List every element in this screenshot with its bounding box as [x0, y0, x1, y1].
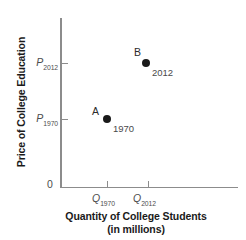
x-tick-label-q1970-sub: 1970 — [100, 200, 115, 207]
scatter-chart: Price of College Education 0 P2012 P1970… — [0, 0, 246, 240]
y-axis-title: Price of College Education — [15, 22, 27, 182]
y-tick-label-p1970-sub: 1970 — [43, 120, 58, 127]
x-axis-title: Quantity of College Students (in million… — [36, 210, 236, 236]
x-tick-mark-q2012 — [148, 181, 149, 188]
y-tick-label-p2012-sub: 2012 — [43, 64, 58, 71]
x-tick-mark-q1970 — [107, 181, 108, 188]
y-tick-label-p2012: P2012 — [22, 56, 58, 70]
data-point-b-label: B — [134, 46, 141, 58]
x-tick-label-q2012-sub: 2012 — [141, 200, 156, 207]
y-tick-mark-p2012 — [61, 63, 68, 64]
data-point-a-label: A — [92, 105, 99, 117]
x-tick-label-q2012-base: Q — [133, 192, 141, 204]
y-tick-mark-p1970 — [61, 119, 68, 120]
origin-label: 0 — [47, 178, 53, 190]
x-axis-title-line1: Quantity of College Students — [65, 210, 206, 222]
data-point-a — [103, 115, 111, 123]
y-axis-line — [60, 18, 62, 188]
y-tick-label-p1970: P1970 — [22, 112, 58, 126]
data-point-b — [142, 59, 150, 67]
data-point-a-year: 1970 — [113, 123, 134, 134]
data-point-b-year: 2012 — [152, 67, 173, 78]
x-tick-label-q1970: Q1970 — [92, 192, 115, 206]
x-tick-label-q2012: Q2012 — [133, 192, 156, 206]
x-axis-title-line2: (in millions) — [36, 223, 236, 236]
x-tick-label-q1970-base: Q — [92, 192, 100, 204]
